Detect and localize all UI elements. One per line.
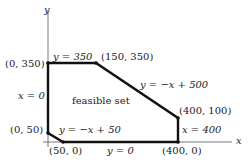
x-axis-label: x: [236, 135, 242, 146]
vertex-label-0-350: (0, 350): [5, 58, 45, 69]
edge-label-left: x = 0: [18, 90, 45, 101]
vertex-label-400-0: (400, 0): [162, 145, 202, 156]
vertex-label-150-350: (150, 350): [101, 51, 153, 62]
feasible-set-diagram: y x (0, 350) (150, 350) (400, 100) (400,…: [0, 0, 250, 165]
vertex-label-50-0: (50, 0): [49, 145, 82, 156]
edge-label-lower-diagonal: y = −x + 50: [58, 124, 122, 135]
edge-label-diagonal: y = −x + 500: [139, 79, 209, 90]
vertex-label-400-100: (400, 100): [179, 105, 231, 116]
edge-label-right: x = 400: [182, 124, 222, 135]
vertex-label-0-50: (0, 50): [10, 124, 43, 135]
y-axis-label: y: [43, 4, 50, 15]
feasible-set-label: feasible set: [72, 95, 130, 106]
edge-label-bottom: y = 0: [106, 145, 134, 156]
edge-label-top: y = 350: [52, 51, 93, 62]
